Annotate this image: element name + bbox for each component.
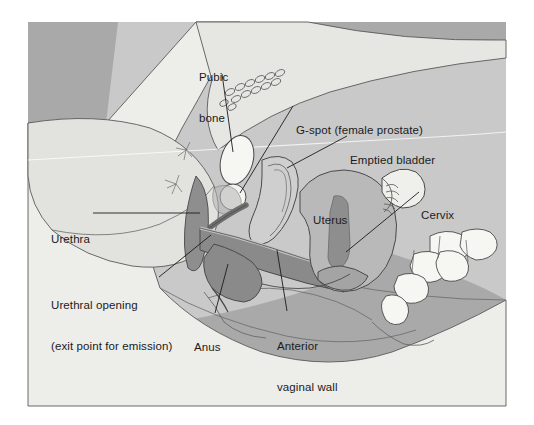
label-urethra-line-0: Urethra [51,233,90,247]
label-pubic-bone-line-0: Pubic [199,71,228,85]
label-anterior-vaginal-wall: Anterior vaginal wall [277,313,338,421]
label-uterus: Uterus [313,187,347,255]
label-cervix: Cervix [421,182,454,250]
label-emptied-bladder-line-0: Emptied bladder [350,154,435,168]
label-urethra: Urethra [51,206,90,274]
label-cervix-line-0: Cervix [421,209,454,223]
label-pubic-bone-line-1: bone [199,112,228,126]
label-anus-line-0: Anus [194,341,221,355]
label-pubic-bone: Pubic bone [199,44,228,152]
anatomy-figure: Pubic bone G-spot (female prostate) Empt… [0,0,534,425]
vertebra-4 [436,251,469,282]
label-urethral-opening: Urethral opening (exit point for emissio… [51,272,172,380]
label-anterior-vaginal-wall-line-1: vaginal wall [277,381,338,395]
label-anterior-vaginal-wall-line-0: Anterior [277,340,338,354]
label-uterus-line-0: Uterus [313,214,347,228]
label-urethral-opening-line-1: (exit point for emission) [51,340,172,354]
label-anus: Anus [194,314,221,382]
label-urethral-opening-line-0: Urethral opening [51,299,172,313]
background-wedge-upper-left [28,22,118,123]
